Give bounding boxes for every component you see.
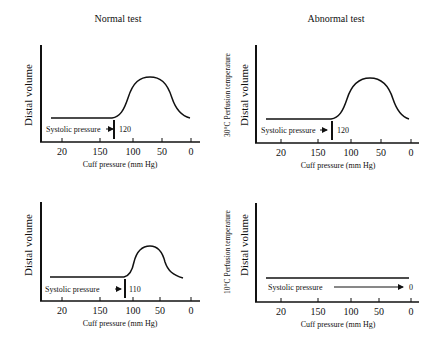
y-axis-label: Distal volume xyxy=(22,64,34,126)
x-axis-label: Cuff pressure (mm Hg) xyxy=(301,161,376,170)
tick-label: 100 xyxy=(344,147,359,158)
tick-label: 0 xyxy=(409,306,414,317)
panel-abnormal-top: 30°C Perfusion temperature Distal volume… xyxy=(223,45,419,170)
tick-label: 20 xyxy=(57,146,67,157)
volume-curve xyxy=(266,78,409,119)
tick-label: 20 xyxy=(276,147,286,158)
volume-curve xyxy=(51,77,190,118)
tick-label: 20 xyxy=(57,305,67,316)
panel-normal-top: 20 150 100 50 0 Cuff pressure (mm Hg) Di… xyxy=(22,45,200,169)
side-label: 30°C Perfusion temperature xyxy=(223,52,232,136)
side-label: 10°C Perfusion temperature xyxy=(223,209,232,293)
tick-label: 150 xyxy=(93,146,108,157)
panel-abnormal-bottom: 10°C Perfusion temperature Distal volume… xyxy=(223,203,419,329)
tick-label: 150 xyxy=(311,147,326,158)
systolic-label: Systolic pressure xyxy=(45,285,100,294)
systolic-label: Systolic pressure xyxy=(46,125,101,134)
tick-label: 50 xyxy=(376,147,386,158)
systolic-label: Systolic pressure xyxy=(261,126,316,135)
y-axis-label: Distal volume xyxy=(238,64,250,126)
tick-label: 0 xyxy=(189,305,194,316)
systolic-value: 120 xyxy=(337,126,349,135)
systolic-value: 120 xyxy=(119,125,131,134)
tick-label: 50 xyxy=(374,306,384,317)
diagram-canvas: 20 150 100 50 0 Cuff pressure (mm Hg) Di… xyxy=(0,0,433,342)
x-axis-label: Cuff pressure (mm Hg) xyxy=(301,320,376,329)
y-axis-label: Distal volume xyxy=(238,214,250,276)
systolic-label: Systolic pressure xyxy=(268,283,323,292)
tick-label: 0 xyxy=(189,146,194,157)
tick-label: 100 xyxy=(344,306,359,317)
x-axis-label: Cuff pressure (mm Hg) xyxy=(83,319,158,328)
tick-label: 150 xyxy=(93,305,108,316)
tick-label: 0 xyxy=(409,147,414,158)
x-axis-label: Cuff pressure (mm Hg) xyxy=(83,160,158,169)
y-axis-label: Distal volume xyxy=(22,214,34,276)
tick-label: 100 xyxy=(126,146,141,157)
tick-label: 50 xyxy=(155,305,165,316)
panel-normal-bottom: Distal volume 20 150 100 50 0 Cuff press… xyxy=(22,202,200,328)
tick-label: 20 xyxy=(276,306,286,317)
systolic-value: 0 xyxy=(409,283,413,292)
systolic-value: 110 xyxy=(129,285,141,294)
tick-label: 150 xyxy=(311,306,326,317)
tick-label: 50 xyxy=(157,146,167,157)
tick-label: 100 xyxy=(126,305,141,316)
volume-curve xyxy=(50,246,183,278)
